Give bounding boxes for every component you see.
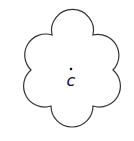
center-label: c	[67, 71, 76, 90]
center-dot	[70, 68, 73, 71]
flower-diagram: c	[0, 0, 134, 141]
